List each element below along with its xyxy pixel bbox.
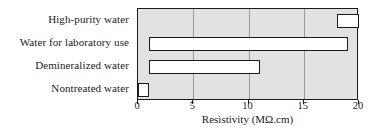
y-axis-tick-label: Water for laboratory use	[0, 31, 133, 54]
y-axis-tick-label: Nontreated water	[0, 77, 133, 100]
bars-group	[138, 9, 357, 99]
y-axis-category-labels: High-purity water Water for laboratory u…	[0, 8, 133, 100]
x-axis-tick-label: 5	[190, 101, 195, 112]
y-axis-tick-label: High-purity water	[0, 8, 133, 31]
x-axis-tick-label: 10	[242, 101, 253, 112]
x-axis-tick-label: 0	[134, 101, 139, 112]
bar-row-demineralized-water	[138, 55, 357, 78]
bar-water-for-laboratory-use	[149, 37, 348, 51]
bar-high-purity-water	[337, 14, 359, 28]
x-axis-tick-label: 15	[298, 101, 309, 112]
bar-demineralized-water	[149, 60, 260, 74]
bar-row-water-for-laboratory-use	[138, 32, 357, 55]
x-axis-tick-label: 20	[353, 101, 364, 112]
plot-area	[137, 8, 358, 100]
bar-row-high-purity-water	[138, 9, 357, 32]
resistivity-bar-chart: High-purity water Water for laboratory u…	[0, 0, 375, 132]
bar-nontreated-water	[138, 83, 149, 97]
bar-row-nontreated-water	[138, 78, 357, 101]
x-axis-title: Resistivity (MΩ.cm)	[137, 114, 358, 125]
y-axis-tick-label: Demineralized water	[0, 54, 133, 77]
